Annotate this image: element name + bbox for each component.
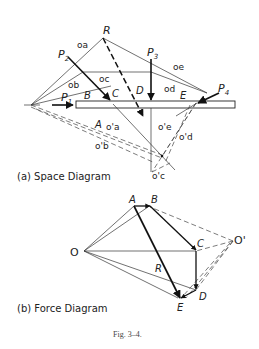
label-p3: P3 bbox=[147, 46, 158, 61]
label-p4: P4 bbox=[218, 82, 229, 97]
label-point-a: A bbox=[128, 194, 136, 205]
rays-from-o-prime bbox=[150, 207, 233, 298]
force-diagram: O O' A B C D E R (b) Force Diagram bbox=[17, 194, 246, 314]
label-point-c: C bbox=[197, 238, 204, 249]
space-diagram: P2 P1 P3 P4 R A B C D E oa ob oc od oe o… bbox=[17, 24, 235, 182]
label-o-prime-b: o'b bbox=[95, 141, 109, 151]
beam bbox=[76, 101, 235, 108]
label-pole-o: O bbox=[70, 246, 79, 259]
label-space-c: C bbox=[112, 88, 119, 99]
vector-de bbox=[181, 290, 196, 298]
label-space-a: A bbox=[94, 119, 102, 130]
label-p2: P2 bbox=[58, 48, 70, 63]
label-o-prime-d: o'd bbox=[179, 132, 193, 142]
label-point-e: E bbox=[177, 302, 184, 313]
label-space-b: B bbox=[84, 90, 91, 101]
label-p1: P1 bbox=[61, 91, 72, 106]
figure-caption: Fig. 3–4. bbox=[113, 330, 142, 339]
label-space-d: D bbox=[136, 85, 144, 96]
vector-resultant-ae bbox=[134, 206, 180, 298]
funicular-polygon-figure: P2 P1 P3 P4 R A B C D E oa ob oc od oe o… bbox=[0, 0, 259, 349]
vector-bc bbox=[150, 206, 196, 250]
label-o-prime-e: o'e bbox=[158, 122, 172, 132]
label-resultant-r: R bbox=[155, 263, 162, 274]
label-r: R bbox=[103, 24, 111, 37]
label-point-d: D bbox=[199, 291, 207, 302]
label-od: od bbox=[164, 84, 175, 94]
space-diagram-caption: (a) Space Diagram bbox=[17, 171, 111, 182]
label-oc: oc bbox=[99, 74, 110, 84]
label-o-prime-c: o'c bbox=[152, 171, 165, 181]
label-ob: ob bbox=[68, 80, 80, 90]
label-o-prime-a: o'a bbox=[106, 122, 120, 132]
label-pole-o-prime: O' bbox=[234, 234, 246, 247]
closing-lines bbox=[31, 103, 196, 172]
label-oe: oe bbox=[173, 62, 185, 72]
label-oa: oa bbox=[77, 40, 88, 50]
label-space-e: E bbox=[180, 90, 187, 101]
label-point-b: B bbox=[151, 194, 158, 205]
force-diagram-caption: (b) Force Diagram bbox=[17, 303, 108, 314]
